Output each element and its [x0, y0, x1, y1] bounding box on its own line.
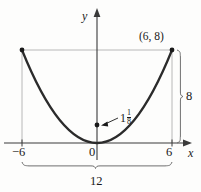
- height-brace-path: [177, 50, 183, 143]
- height-brace: [177, 50, 183, 143]
- point-left-endpoint: [20, 48, 25, 53]
- point-coordinate-label: (6, 8): [139, 31, 164, 43]
- x-axis-label: x: [188, 147, 193, 159]
- x-tick-label-pos6: 6: [166, 146, 172, 159]
- y-axis-arrowhead: [94, 8, 101, 17]
- focal-denominator: 8: [127, 117, 131, 126]
- focal-distance-label: 1 1 8: [120, 109, 131, 127]
- point-focus: [95, 123, 100, 128]
- x-tick-label-neg6: −6: [12, 146, 25, 159]
- focal-numerator: 1: [127, 109, 131, 117]
- focal-fraction: 1 8: [127, 109, 131, 127]
- width-brace: [22, 162, 172, 169]
- height-measurement-label: 8: [186, 90, 192, 103]
- figure-canvas: [0, 0, 201, 192]
- parabola-figure: y x −6 0 6 12 8 (6, 8) 1 1 8: [0, 0, 201, 192]
- point-right-endpoint: [170, 48, 175, 53]
- origin-label: 0: [89, 146, 95, 159]
- focal-whole-number: 1: [120, 112, 126, 124]
- width-brace-path: [22, 162, 172, 169]
- width-measurement-label: 12: [90, 175, 103, 188]
- y-axis-label: y: [82, 10, 87, 22]
